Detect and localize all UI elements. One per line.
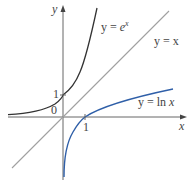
ln-curve-label: y = ln x [138, 96, 174, 108]
graph-canvas [0, 0, 195, 185]
origin-label: 0 [51, 104, 57, 116]
x-tick-label: 1 [83, 121, 89, 133]
y-axis-label: y [52, 3, 57, 15]
x-axis-label: x [179, 120, 184, 132]
identity-line-label: y = x [154, 35, 179, 47]
exp-curve-label: y = ex [101, 20, 129, 33]
y-tick-label: 1 [53, 88, 59, 100]
y-axis-arrow-icon [61, 5, 66, 12]
function-graph: y x 0 1 1 y = ex y = x y = ln x [0, 0, 195, 185]
